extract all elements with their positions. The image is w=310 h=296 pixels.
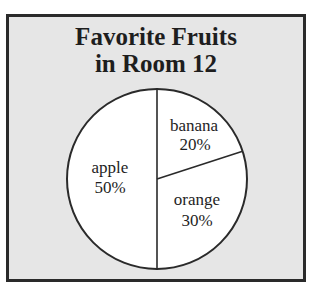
slice-label-orange: orange — [174, 190, 220, 209]
slice-value-apple: 50% — [94, 178, 125, 197]
slice-value-orange: 30% — [181, 211, 212, 230]
slice-label-banana: banana — [170, 116, 219, 135]
slice-value-banana: 20% — [179, 135, 210, 154]
slice-label-apple: apple — [92, 158, 129, 177]
pie-chart: apple 50% banana 20% orange 30% — [0, 0, 310, 296]
